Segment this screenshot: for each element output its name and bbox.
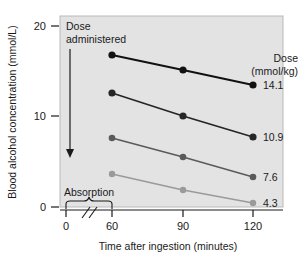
series-14-1-point-90 <box>179 66 186 73</box>
series-4-3-point-90 <box>180 187 186 193</box>
series-4-3-point-120 <box>250 200 256 206</box>
x-tick-label-0: 0 <box>63 220 69 232</box>
series-label-7-6: 7.6 <box>263 171 278 183</box>
series-10-9-point-60 <box>108 89 115 96</box>
axis-break-icon <box>82 207 97 218</box>
x-tick-label-60: 60 <box>106 220 118 232</box>
series-14-1-point-60 <box>108 51 115 58</box>
y-axis-title: Blood alcohol concentration (mmol/L) <box>6 25 18 198</box>
x-tick-label-120: 120 <box>244 220 262 232</box>
y-tick-label-20: 20 <box>34 20 46 32</box>
series-7-6-point-60 <box>109 135 116 142</box>
dose-administered-label-line1: Dose <box>66 20 91 32</box>
series-label-4-3: 4.3 <box>263 197 278 209</box>
x-tick-label-90: 90 <box>177 220 189 232</box>
series-10-9-point-120 <box>249 133 256 140</box>
legend-title-line2: (mmol/kg) <box>251 65 298 77</box>
series-label-10-9: 10.9 <box>263 131 284 143</box>
y-tick-label-0: 0 <box>40 201 46 213</box>
blood-alcohol-line-chart: 20 10 0 Blood alcohol concentration (mmo… <box>0 0 303 257</box>
series-4-3-point-60 <box>109 171 115 177</box>
absorption-label: Absorption <box>64 186 114 198</box>
y-tick-label-10: 10 <box>34 110 46 122</box>
chart-figure: 20 10 0 Blood alcohol concentration (mmo… <box>0 0 303 257</box>
series-7-6-point-120 <box>250 174 257 181</box>
series-7-6-point-90 <box>180 154 187 161</box>
series-10-9-point-90 <box>179 112 186 119</box>
dose-administered-label-line2: administered <box>66 33 126 45</box>
series-label-14-1: 14.1 <box>263 79 284 91</box>
x-axis-title: Time after ingestion (minutes) <box>99 240 238 252</box>
legend-title-line1: Dose <box>273 52 298 64</box>
series-14-1-point-120 <box>249 81 256 88</box>
